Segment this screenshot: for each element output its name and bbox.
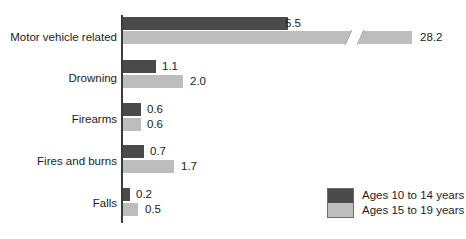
category-label-falls: Falls: [93, 197, 117, 210]
bar-value-fires-and-burns-ages-15-19: 1.7: [181, 160, 197, 173]
legend-label-ages-15-19: Ages 15 to 19 years: [362, 203, 464, 218]
bar-value-firearms-ages-10-14: 0.6: [147, 103, 163, 116]
legend-swatch-ages-10-14: [328, 189, 353, 203]
bar-value-fires-and-burns-ages-10-14: 0.7: [150, 145, 166, 158]
legend: Ages 10 to 14 years Ages 15 to 19 years: [327, 188, 464, 218]
bar-value-drowning-ages-10-14: 1.1: [162, 60, 178, 73]
bar-fires-and-burns-ages-10-14: [123, 145, 144, 158]
legend-swatch-ages-15-19: [328, 203, 353, 217]
bar-value-motor-vehicle-related-ages-15-19: 28.2: [420, 31, 442, 44]
bar-firearms-ages-10-14: [123, 103, 141, 116]
bar-drowning-ages-10-14: [123, 60, 156, 73]
bar-motor-vehicle-related-ages-15-19: [123, 31, 412, 44]
bar-firearms-ages-15-19: [123, 118, 141, 131]
legend-label-group: Ages 10 to 14 years Ages 15 to 19 years: [362, 188, 464, 218]
bar-drowning-ages-15-19: [123, 75, 183, 88]
bar-value-falls-ages-10-14: 0.2: [136, 188, 152, 201]
bar-chart: Motor vehicle related 5.5 28.2 Drowning …: [0, 0, 466, 239]
category-label-fires-and-burns: Fires and burns: [37, 155, 117, 168]
legend-swatch-group: [327, 188, 354, 218]
bar-value-drowning-ages-15-19: 2.0: [190, 75, 206, 88]
bar-value-firearms-ages-15-19: 0.6: [147, 118, 163, 131]
bar-falls-ages-15-19: [123, 203, 138, 216]
bar-value-falls-ages-15-19: 0.5: [145, 203, 161, 216]
bar-value-motor-vehicle-related-ages-10-14: 5.5: [285, 17, 301, 30]
bar-motor-vehicle-related-ages-10-14: [123, 17, 288, 30]
category-label-motor-vehicle-related: Motor vehicle related: [10, 31, 117, 44]
bar-falls-ages-10-14: [123, 188, 130, 201]
legend-label-ages-10-14: Ages 10 to 14 years: [362, 188, 464, 203]
category-label-firearms: Firearms: [72, 113, 117, 126]
category-label-drowning: Drowning: [68, 72, 117, 85]
bar-fires-and-burns-ages-15-19: [123, 160, 174, 173]
